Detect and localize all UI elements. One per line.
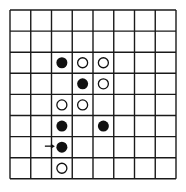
- white-stone: [57, 100, 67, 110]
- white-stone: [57, 163, 67, 173]
- arrow-head: [51, 144, 55, 149]
- white-stone: [98, 79, 108, 89]
- game-board: [0, 0, 186, 192]
- black-stone: [56, 142, 67, 153]
- grid-lines: [10, 10, 176, 179]
- black-stone: [98, 121, 109, 132]
- arrow-marker-icon: [45, 144, 55, 149]
- black-stone: [56, 121, 67, 132]
- black-stone: [77, 78, 88, 89]
- white-stone: [98, 58, 108, 68]
- white-stone: [78, 100, 88, 110]
- white-stone: [78, 58, 88, 68]
- black-stone: [56, 57, 67, 68]
